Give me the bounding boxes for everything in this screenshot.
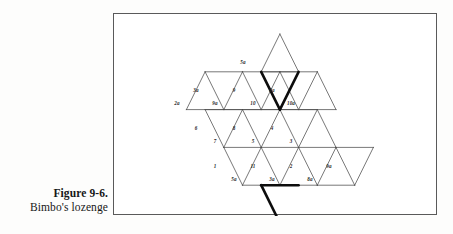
grid-edge xyxy=(299,110,318,148)
cell-label-c-3a: 3a xyxy=(192,87,199,93)
figure-caption: Figure 9-6. Bimbo's lozenge xyxy=(4,186,108,214)
cell-label-c-2: 2 xyxy=(289,163,293,169)
cell-label-c-3b: 3a xyxy=(268,176,275,182)
grid-edge xyxy=(336,147,355,185)
grid-edge xyxy=(355,147,374,185)
cell-label-c-9a: 9a xyxy=(212,100,218,106)
figure-title: Bimbo's lozenge xyxy=(4,200,108,214)
cell-label-c-7: 7 xyxy=(214,138,217,144)
grid-edge xyxy=(261,34,280,72)
cell-label-c-5: 5 xyxy=(252,138,255,144)
page-canvas: Figure 9-6. Bimbo's lozenge 5a3a2a9a9106… xyxy=(0,0,453,234)
cell-label-c-9: 9 xyxy=(233,87,236,93)
triangle-cell-labels: 5a3a2a9a9106a10a67854315a113a28a9a xyxy=(173,59,332,182)
cell-label-c-11: 11 xyxy=(250,163,255,169)
cell-label-c-5a: 5a xyxy=(240,59,246,65)
cell-label-c-3: 3 xyxy=(289,138,293,144)
grid-edge xyxy=(280,34,299,72)
grid-edge xyxy=(299,72,318,110)
cell-label-c-10a: 10a xyxy=(287,100,295,106)
bimbos-lozenge-diagram: 5a3a2a9a9106a10a67854315a113a28a9a xyxy=(114,14,438,216)
bold-edge-lower-left xyxy=(261,185,280,216)
figure-frame: 5a3a2a9a9106a10a67854315a113a28a9a xyxy=(113,13,437,215)
cell-label-c-5b: 5a xyxy=(231,176,237,182)
cell-label-c-8: 8 xyxy=(233,125,236,131)
triangle-grid-bold-edges xyxy=(261,72,298,216)
figure-number: Figure 9-6. xyxy=(4,186,108,200)
cell-label-c-6: 6 xyxy=(195,125,198,131)
cell-label-c-10: 10 xyxy=(250,100,256,106)
grid-edge xyxy=(317,110,336,148)
cell-label-c-9b: 9a xyxy=(326,163,332,169)
grid-edge xyxy=(317,72,336,110)
cell-label-c-2a: 2a xyxy=(173,100,180,106)
cell-label-c-4: 4 xyxy=(270,125,274,131)
cell-label-c-1: 1 xyxy=(214,163,217,169)
cell-label-c-8a: 8a xyxy=(307,176,313,182)
cell-label-c-6a: 6a xyxy=(269,87,275,93)
